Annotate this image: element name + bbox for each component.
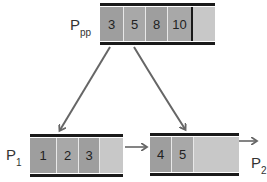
empty-slot: [194, 137, 239, 172]
node-ppp: 3 5 8 10: [100, 3, 215, 45]
key-cell: 5: [172, 137, 194, 172]
label-sub: 2: [261, 165, 267, 176]
key-cell: 2: [57, 138, 79, 173]
key-cell: 8: [146, 7, 168, 41]
key-cell: 10: [168, 7, 193, 41]
node-p2: 4 5: [150, 133, 239, 176]
label-sub: pp: [80, 27, 91, 38]
node-label-p2: P2: [251, 154, 267, 174]
key-cell: 3: [100, 7, 124, 41]
label-main: P: [70, 16, 80, 33]
node-p1: 1 2 3: [30, 134, 123, 177]
label-main: P: [251, 154, 261, 171]
key-cell: 3: [79, 138, 100, 173]
node-label-p1: P1: [6, 146, 22, 166]
node-label-ppp: Ppp: [70, 16, 91, 36]
label-main: P: [6, 146, 16, 163]
empty-slot: [193, 7, 215, 41]
edge-ppp-to-p2: [134, 47, 185, 129]
label-sub: 1: [16, 157, 22, 168]
key-cell: 1: [30, 138, 57, 173]
edge-ppp-to-p1: [60, 47, 110, 130]
empty-slot: [100, 138, 123, 173]
key-cell: 4: [150, 137, 172, 172]
key-cell: 5: [124, 7, 146, 41]
